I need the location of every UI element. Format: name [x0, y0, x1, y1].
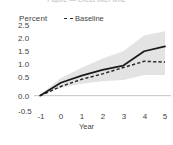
confidence-band	[40, 31, 165, 96]
chart-container: Figure — effect over time Percent Baseli…	[0, 0, 173, 145]
plot-area	[0, 0, 173, 145]
